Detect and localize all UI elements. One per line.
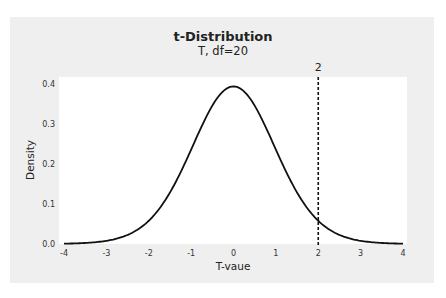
- reference-line-label: 2: [315, 61, 322, 74]
- y-axis-label: Density: [24, 140, 36, 180]
- x-tick-label: 2: [316, 249, 321, 258]
- x-tick-label: 3: [358, 249, 363, 258]
- y-tick-label: 0.1: [42, 200, 55, 209]
- x-tick-label: 0: [231, 249, 236, 258]
- x-tick-label: -4: [60, 249, 68, 258]
- x-tick-label: 1: [273, 249, 278, 258]
- y-tick-label: 0.4: [42, 80, 55, 89]
- x-tick-label: -2: [145, 249, 153, 258]
- y-tick-label: 0.3: [42, 120, 55, 129]
- t-distribution-chart: 0.00.10.20.30.4 -4-3-2-101234 2 T-vaue D…: [0, 0, 446, 298]
- x-tick-label: 4: [400, 249, 405, 258]
- x-axis-label: T-vaue: [215, 260, 251, 272]
- y-tick-label: 0.2: [42, 160, 55, 169]
- x-tick-label: -3: [102, 249, 110, 258]
- y-axis-ticks: 0.00.10.20.30.4: [42, 80, 55, 249]
- x-axis-ticks: -4-3-2-101234: [60, 249, 406, 258]
- x-tick-label: -1: [187, 249, 195, 258]
- density-curve: [64, 86, 403, 243]
- y-tick-label: 0.0: [42, 240, 55, 249]
